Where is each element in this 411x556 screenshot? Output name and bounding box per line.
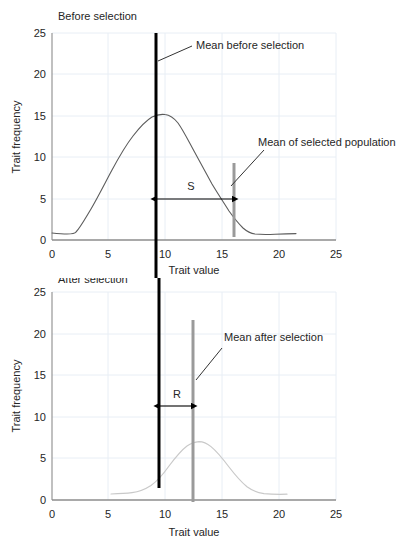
chart-after-selection: R Mean after selection 25 20 15 10 5 0 0… bbox=[0, 278, 411, 556]
annotation-mean-before-selection: Mean before selection bbox=[196, 39, 304, 51]
panel-after-selection: R Mean after selection 25 20 15 10 5 0 0… bbox=[0, 278, 411, 556]
x-tick-20: 20 bbox=[273, 248, 285, 260]
y-tick-0: 0 bbox=[40, 494, 46, 506]
x-tick-15: 15 bbox=[216, 248, 228, 260]
x-tick-labels: 0 5 10 15 20 25 bbox=[49, 508, 342, 520]
x-axis-title-after: Trait value bbox=[169, 526, 220, 538]
x-tick-20: 20 bbox=[273, 508, 285, 520]
y-tick-labels: 25 20 15 10 5 0 bbox=[34, 286, 46, 506]
x-tick-5: 5 bbox=[105, 248, 111, 260]
y-tick-25: 25 bbox=[34, 286, 46, 298]
x-tick-10: 10 bbox=[159, 248, 171, 260]
x-tick-0: 0 bbox=[49, 248, 55, 260]
annotation-mean-after-selection: Mean after selection bbox=[224, 331, 323, 343]
panel-before-selection: S Mean before selection Mean of selected… bbox=[0, 0, 411, 278]
x-tick-0: 0 bbox=[49, 508, 55, 520]
y-tick-25: 25 bbox=[34, 27, 46, 39]
x-tick-25: 25 bbox=[330, 248, 342, 260]
chart-before-selection: S Mean before selection Mean of selected… bbox=[0, 0, 411, 278]
y-axis-title-before: Trait frequency bbox=[10, 100, 22, 173]
y-tick-0: 0 bbox=[40, 234, 46, 246]
leader-mean-before-selection bbox=[158, 46, 192, 61]
y-tick-15: 15 bbox=[34, 369, 46, 381]
x-tick-25: 25 bbox=[330, 508, 342, 520]
leader-mean-selected-population bbox=[231, 150, 264, 186]
y-tick-15: 15 bbox=[34, 110, 46, 122]
panel-title-after: After selection bbox=[58, 278, 128, 285]
x-tick-5: 5 bbox=[105, 508, 111, 520]
y-tick-5: 5 bbox=[40, 452, 46, 464]
x-axis-title-before: Trait value bbox=[169, 264, 220, 276]
y-tick-10: 10 bbox=[34, 151, 46, 163]
x-tick-10: 10 bbox=[159, 508, 171, 520]
y-tick-20: 20 bbox=[34, 68, 46, 80]
panel-title-before: Before selection bbox=[58, 10, 137, 22]
annotation-R: R bbox=[173, 388, 181, 400]
y-tick-10: 10 bbox=[34, 411, 46, 423]
curve-after-selection bbox=[111, 442, 287, 495]
annotation-mean-selected-population: Mean of selected population bbox=[258, 136, 396, 148]
y-tick-20: 20 bbox=[34, 328, 46, 340]
y-tick-5: 5 bbox=[40, 193, 46, 205]
y-tick-labels: 25 20 15 10 5 0 bbox=[34, 27, 46, 246]
curve-before-selection bbox=[52, 114, 296, 234]
selection-response-figure: S Mean before selection Mean of selected… bbox=[0, 0, 411, 556]
x-tick-15: 15 bbox=[216, 508, 228, 520]
y-axis-title-after: Trait frequency bbox=[10, 359, 22, 432]
x-tick-labels: 0 5 10 15 20 25 bbox=[49, 248, 342, 260]
annotation-S: S bbox=[187, 180, 194, 192]
